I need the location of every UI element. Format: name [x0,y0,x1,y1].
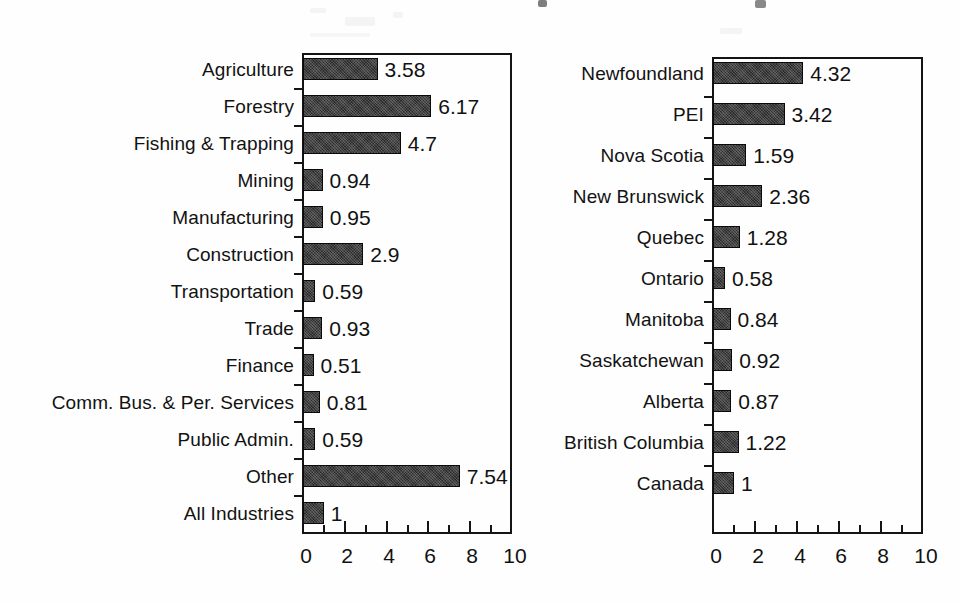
y-axis-tick [704,137,713,139]
y-axis-tick [704,342,713,344]
value-label: 1.59 [753,145,794,166]
bar: 4.32 [713,62,803,84]
table-row: Saskatchewan 0.92 [713,349,714,371]
category-label: Saskatchewan [579,351,704,370]
x-axis-tick-major [921,521,923,532]
bar: 1.28 [713,226,740,248]
value-label: 0.87 [738,391,779,412]
bar: 0.87 [713,390,731,412]
category-label: Quebec [637,228,704,247]
plot-frame-right [712,57,923,534]
x-axis-tick-minor [733,525,735,532]
bar-chart-provinces: Newfoundland 4.32 PEI 3.42 Nova Scotia 1… [0,0,960,602]
value-label: 1.22 [746,432,787,453]
value-label: 1 [741,473,753,494]
x-axis-tick-minor [901,525,903,532]
bar: 1.22 [713,431,739,453]
x-axis-label: 10 [914,545,937,566]
y-axis-tick [704,424,713,426]
table-row: Ontario 0.58 [713,267,714,289]
category-label: Canada [637,474,704,493]
x-axis-tick-major [712,521,714,532]
bar: 0.92 [713,349,732,371]
table-row: British Columbia 1.22 [713,431,714,453]
x-axis-label: 4 [794,545,806,566]
bar: 0.84 [713,308,731,330]
bar: 1.59 [713,144,746,166]
x-axis-label: 8 [877,545,889,566]
table-row: Alberta 0.87 [713,390,714,412]
bar: 3.42 [713,103,785,125]
value-label: 4.32 [810,63,851,84]
category-label: Nova Scotia [600,146,704,165]
value-label: 1.28 [747,227,788,248]
value-label: 0.92 [739,350,780,371]
category-label: Newfoundland [581,64,704,83]
table-row: Manitoba 0.84 [713,308,714,330]
table-row: Newfoundland 4.32 [713,62,714,84]
y-axis-tick [704,96,713,98]
x-axis-tick-major [880,521,882,532]
y-axis-tick [704,383,713,385]
bar: 0.58 [713,267,725,289]
x-axis-tick-major [838,521,840,532]
x-axis-tick-major [796,521,798,532]
y-axis-tick [704,260,713,262]
y-axis-tick [704,178,713,180]
value-label: 0.84 [738,309,779,330]
x-axis-tick-minor [859,525,861,532]
value-label: 3.42 [792,104,833,125]
category-label: Ontario [641,269,704,288]
table-row: Canada 1 [713,472,714,494]
x-axis-tick-minor [775,525,777,532]
table-row: PEI 3.42 [713,103,714,125]
x-axis-label: 2 [752,545,764,566]
y-axis-tick [704,301,713,303]
category-label: Alberta [643,392,704,411]
x-axis-tick-major [754,521,756,532]
bar: 1 [713,472,734,494]
category-label: British Columbia [564,433,704,452]
figure-page: Agriculture 3.58 Forestry 6.17 Fishing &… [0,0,960,602]
x-axis-label: 6 [835,545,847,566]
table-row: Quebec 1.28 [713,226,714,248]
bar: 2.36 [713,185,762,207]
category-label: PEI [673,105,704,124]
x-axis-label: 0 [710,545,722,566]
value-label: 0.58 [732,268,773,289]
y-axis-tick [704,465,713,467]
x-axis-tick-minor [817,525,819,532]
table-row: New Brunswick 2.36 [713,185,714,207]
category-label: New Brunswick [573,187,704,206]
y-axis-tick [704,219,713,221]
value-label: 2.36 [769,186,810,207]
table-row: Nova Scotia 1.59 [713,144,714,166]
category-label: Manitoba [625,310,704,329]
